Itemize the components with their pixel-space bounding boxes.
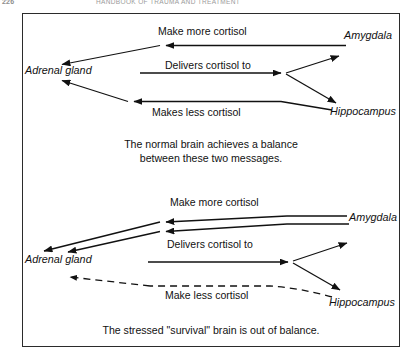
edge-label-make-more-cortisol-2: Make more cortisol — [170, 196, 259, 208]
node-label-amygdala-1: Amygdala — [344, 29, 392, 41]
edge-label-makes-less-cortisol-1: Makes less cortisol — [152, 106, 241, 118]
node-label-hippocampus-1: Hippocampus — [330, 105, 396, 117]
node-label-hippocampus-2: Hippocampus — [329, 296, 395, 308]
caption-panel-1: The normal brain achieves a balance betw… — [22, 138, 400, 165]
edge-label-delivers-cortisol-to-2: Delivers cortisol to — [167, 238, 253, 250]
edge-label-make-less-cortisol-2: Make less cortisol — [165, 289, 248, 301]
page-header: 226 HANDBOOK OF TRAUMA AND TREATMENT — [0, 0, 420, 9]
caption-panel-2: The stressed "survival" brain is out of … — [22, 324, 400, 338]
caption-panel-1-line-1: The normal brain achieves a balance — [22, 138, 400, 152]
node-label-adrenal-gland-2: Adrenal gland — [25, 253, 92, 265]
caption-panel-2-line-1: The stressed "survival" brain is out of … — [22, 324, 400, 338]
node-label-adrenal-gland-1: Adrenal gland — [25, 64, 92, 76]
running-title: HANDBOOK OF TRAUMA AND TREATMENT — [96, 0, 240, 5]
edge-label-delivers-cortisol-to-1: Delivers cortisol to — [165, 59, 251, 71]
page-number: 226 — [2, 0, 14, 5]
caption-panel-1-line-2: between these two messages. — [22, 152, 400, 166]
edge-label-make-more-cortisol-1: Make more cortisol — [158, 25, 247, 37]
node-label-amygdala-2: Amygdala — [349, 211, 397, 223]
